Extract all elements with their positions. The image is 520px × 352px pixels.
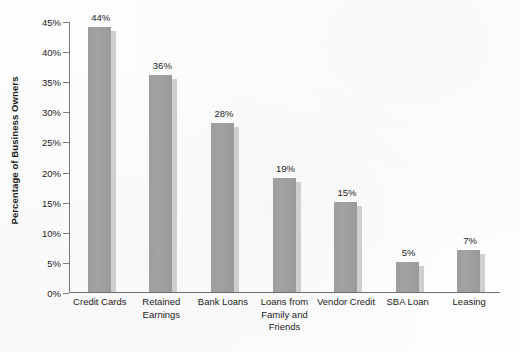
- bar-fill: [334, 202, 357, 292]
- x-axis-category-label: Vendor Credit: [311, 296, 381, 309]
- y-axis-tick: [63, 173, 69, 174]
- bar: 44%: [88, 27, 116, 292]
- bar: 7%: [457, 250, 485, 292]
- bar: 15%: [334, 202, 362, 292]
- x-axis-category-label-line: Friends: [250, 321, 320, 334]
- bar-chart-figure: Percentage of Business Owners 45%40%35%3…: [0, 0, 520, 352]
- bar-value-label: 36%: [142, 60, 182, 71]
- bar-value-label: 15%: [327, 187, 367, 198]
- x-axis-category-label-line: Vendor Credit: [311, 296, 381, 309]
- bar: 5%: [396, 262, 424, 292]
- y-axis-tick: [63, 142, 69, 143]
- bar-fill: [396, 262, 419, 292]
- x-axis-category-label: Leasing: [434, 296, 504, 309]
- y-axis-tick-label: 10%: [42, 227, 61, 238]
- x-axis-category-label: Loans fromFamily andFriends: [250, 296, 320, 334]
- y-axis-tick-label: 0%: [47, 288, 61, 299]
- y-axis-tick-label: 40%: [42, 47, 61, 58]
- x-axis-category-label: Bank Loans: [188, 296, 258, 309]
- y-axis-tick: [63, 112, 69, 113]
- x-axis-line: [69, 292, 500, 293]
- y-axis-tick: [63, 22, 69, 23]
- y-axis-tick: [63, 293, 69, 294]
- x-axis-category-label-line: Family and: [250, 309, 320, 322]
- x-axis-category-label-line: Credit Cards: [65, 296, 135, 309]
- y-axis-tick: [63, 263, 69, 264]
- y-axis-tick: [63, 203, 69, 204]
- x-axis-category-label-line: SBA Loan: [373, 296, 443, 309]
- y-axis-tick: [63, 82, 69, 83]
- y-axis-tick-labels: 45%40%35%30%25%20%15%10%5%0%: [26, 22, 61, 293]
- y-axis-title-label: Percentage of Business Owners: [9, 76, 20, 224]
- bar-fill: [457, 250, 480, 292]
- plot-area: 44%36%28%19%15%5%7%: [69, 22, 500, 292]
- x-axis-category-label-line: Bank Loans: [188, 296, 258, 309]
- y-axis-tick-label: 15%: [42, 197, 61, 208]
- bar-value-label: 19%: [266, 163, 306, 174]
- y-axis-tick: [63, 233, 69, 234]
- bar-fill: [273, 178, 296, 292]
- x-axis-category-label-line: Loans from: [250, 296, 320, 309]
- x-axis-category-label-line: Retained: [127, 296, 197, 309]
- y-axis-title: Percentage of Business Owners: [4, 0, 24, 300]
- x-axis-category-label: SBA Loan: [373, 296, 443, 309]
- x-axis-category-label: RetainedEarnings: [127, 296, 197, 321]
- y-axis-tick-label: 45%: [42, 17, 61, 28]
- bar: 19%: [273, 178, 301, 292]
- bar: 28%: [211, 123, 239, 292]
- y-axis-tick: [63, 52, 69, 53]
- bar-value-label: 5%: [389, 247, 429, 258]
- bar-value-label: 7%: [450, 235, 490, 246]
- bar-fill: [88, 27, 111, 292]
- y-axis-line: [69, 22, 70, 293]
- bar: 36%: [149, 75, 177, 292]
- bar-value-label: 28%: [204, 108, 244, 119]
- x-axis-category-label-line: Leasing: [434, 296, 504, 309]
- x-axis-category-labels: Credit CardsRetainedEarningsBank LoansLo…: [69, 296, 500, 350]
- bar-fill: [211, 123, 234, 292]
- y-axis-tick-label: 5%: [47, 257, 61, 268]
- x-axis-category-label-line: Earnings: [127, 309, 197, 322]
- y-axis-tick-label: 25%: [42, 137, 61, 148]
- bar-value-label: 44%: [81, 12, 121, 23]
- y-axis-tick-label: 20%: [42, 167, 61, 178]
- bar-fill: [149, 75, 172, 292]
- y-axis-tick-label: 30%: [42, 107, 61, 118]
- y-axis-tick-label: 35%: [42, 77, 61, 88]
- x-axis-category-label: Credit Cards: [65, 296, 135, 309]
